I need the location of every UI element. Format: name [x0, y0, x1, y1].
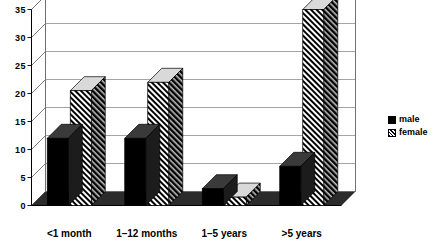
- bar: [47, 124, 82, 205]
- bar-chart: 05101520253035 <1 month1–12 months1–5 ye…: [0, 0, 437, 243]
- legend-item: male: [388, 114, 437, 125]
- bar: [125, 124, 160, 205]
- x-axis-tick-label: >5 years: [263, 229, 341, 239]
- x-axis-tick-label: <1 month: [31, 229, 109, 239]
- legend-item-label: male: [399, 115, 420, 124]
- chart-legend: malefemale: [388, 114, 437, 140]
- x-axis-tick-label: 1–12 months: [108, 229, 186, 239]
- plot-area: [0, 0, 437, 243]
- legend-swatch-female-icon: [388, 129, 396, 137]
- legend-item: female: [388, 127, 437, 138]
- x-axis-tick-label: 1–5 years: [186, 229, 264, 239]
- legend-swatch-male-icon: [388, 116, 396, 124]
- legend-item-label: female: [399, 128, 428, 137]
